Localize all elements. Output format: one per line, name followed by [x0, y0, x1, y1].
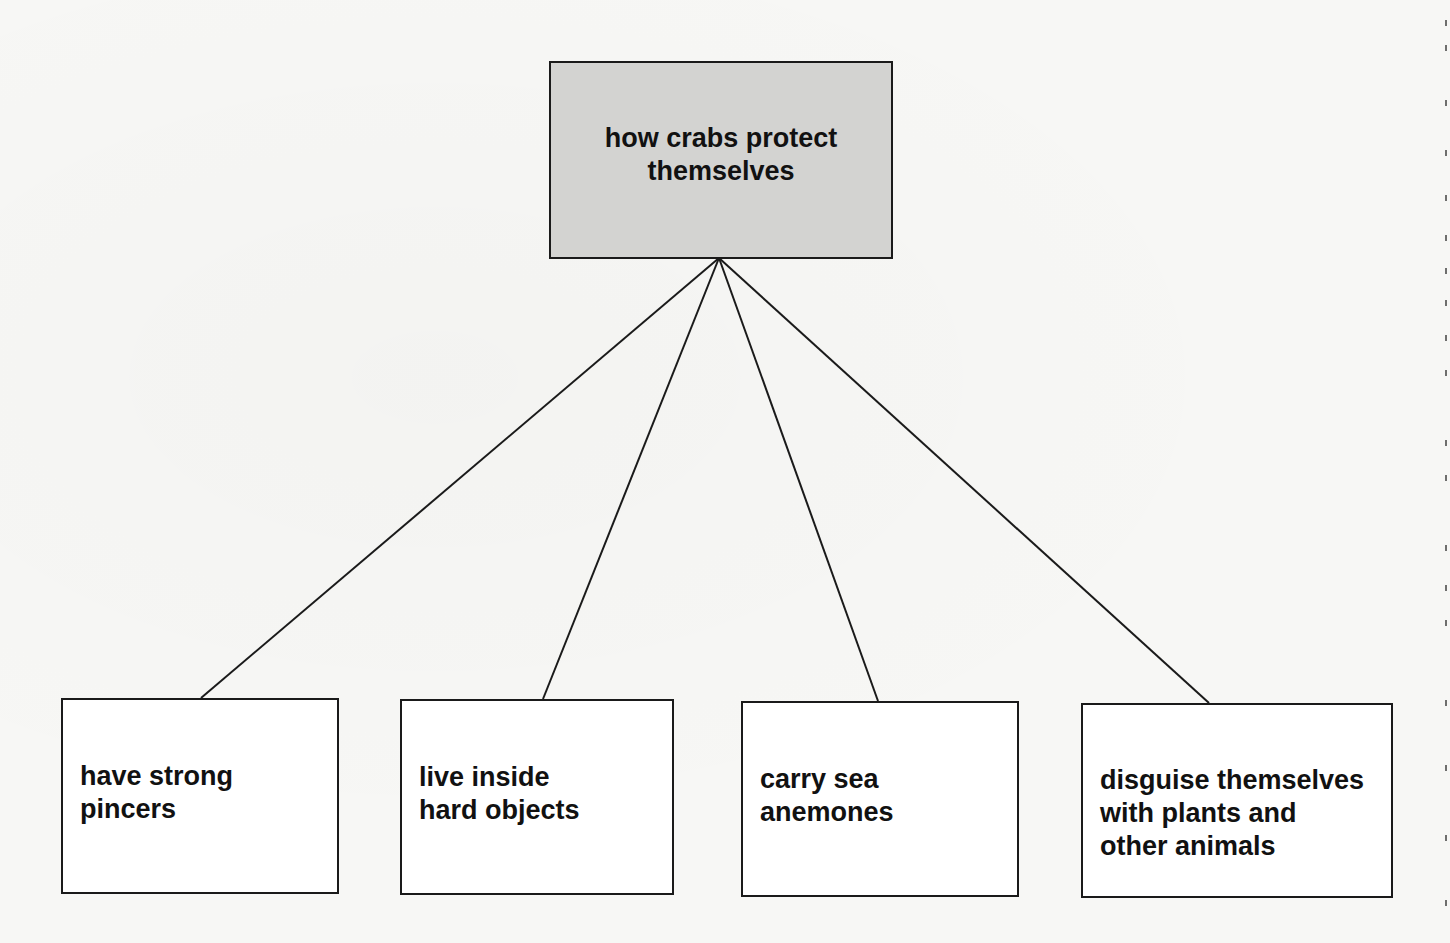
connector-line-hard-objects: [543, 258, 719, 699]
child-label-sea-anemones: carry sea anemones: [760, 763, 894, 829]
child-box-sea-anemones: carry sea anemones: [741, 701, 1019, 897]
root-concept-label: how crabs protect themselves: [605, 122, 838, 188]
connector-line-disguise: [719, 258, 1209, 703]
child-box-disguise: disguise themselves with plants and othe…: [1081, 703, 1393, 898]
concept-map-canvas: how crabs protect themselves have strong…: [0, 0, 1450, 943]
connector-line-pincers: [201, 258, 719, 698]
root-concept-box: how crabs protect themselves: [549, 61, 893, 259]
child-label-strong-pincers: have strong pincers: [80, 760, 233, 826]
child-label-disguise: disguise themselves with plants and othe…: [1100, 764, 1364, 863]
connector-line-anemones: [719, 258, 878, 701]
child-label-hard-objects: live inside hard objects: [419, 761, 580, 827]
child-box-hard-objects: live inside hard objects: [400, 699, 674, 895]
child-box-strong-pincers: have strong pincers: [61, 698, 339, 894]
scan-edge-artifacts: [1438, 0, 1450, 943]
